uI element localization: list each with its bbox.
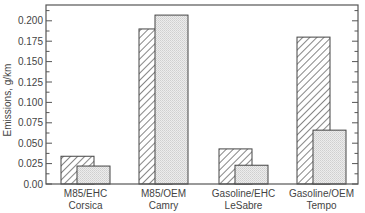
y-tick-label: 0.00 [24,179,44,190]
bar-group-lesabre [219,149,268,184]
y-axis-title: Emissions, g/km [2,64,13,137]
category-label-line1: Gasoline/EHC [212,188,275,199]
category-label-line1: M85/OEM [141,188,186,199]
x-axis-category-labels: M85/EHCCorsicaM85/OEMCamryGasoline/EHCLe… [64,188,354,211]
y-tick-label: 0.200 [18,15,43,26]
bar-stippled [77,166,110,184]
bar-groups [61,15,346,184]
bar-stippled [155,15,188,184]
bar-stippled [313,130,346,184]
y-tick-label: 0.075 [18,117,43,128]
y-axis-label: Emissions, g/km [2,64,13,137]
bar-group-tempo [297,37,346,184]
y-tick-label: 0.150 [18,56,43,67]
emissions-bar-chart: Emissions, g/km 0.000.0250.0500.0750.100… [0,0,365,213]
y-tick-label: 0.175 [18,36,43,47]
y-tick-label: 0.050 [18,138,43,149]
y-tick-label: 0.025 [18,158,43,169]
category-label-line2: LeSabre [225,200,263,211]
category-label-line2: Tempo [306,200,336,211]
category-label-line2: Corsica [69,200,103,211]
bar-group-camry [139,15,188,184]
bar-group-corsica [61,156,110,184]
category-label-line1: Gasoline/OEM [289,188,354,199]
category-label-line2: Camry [149,200,178,211]
y-tick-label: 0.100 [18,97,43,108]
y-tick-label: 0.125 [18,77,43,88]
category-label-line1: M85/EHC [64,188,107,199]
bar-stippled [235,165,268,184]
